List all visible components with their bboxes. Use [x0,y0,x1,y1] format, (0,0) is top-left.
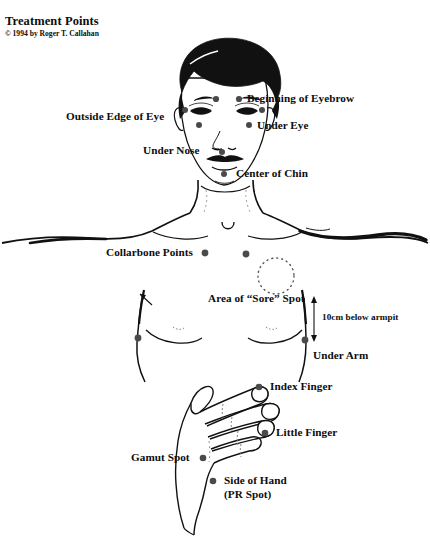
treatment-point-center-of-chin [221,171,227,177]
treatment-point-under-eye-left [196,122,202,128]
label-index-finger: Index Finger [270,380,332,393]
neck-tendon-right-icon [246,190,251,214]
clavicle-left-icon [153,232,208,239]
label-pr-spot: (PR Spot) [224,488,271,501]
head-group [174,38,280,185]
hand-outline [176,403,191,528]
trapezius-left-accent [30,239,106,243]
neck-tendon-left-icon [203,190,207,214]
hand-edge-outline [194,463,214,535]
sore-spot-circle [258,258,294,294]
clavicle-right-icon [248,232,302,239]
thumb-outline [191,386,213,413]
little-finger-outline [211,437,261,463]
label-collarbone-points: Collarbone Points [106,246,193,259]
hand-group [176,386,280,535]
neck-right-outline [253,180,263,213]
treatment-point-under-nose [219,149,225,155]
knuckle-crease-1-icon [222,404,223,418]
armpit-measure-arrowhead-top [311,296,317,303]
treatment-point-beginning-of-eyebrow-left [213,96,219,102]
treatment-point-little-finger [262,430,269,437]
wrist-outline [184,528,194,535]
treatment-point-index-finger [256,384,263,391]
treatment-point-under-eye-right [246,122,252,128]
middle-finger-tip-icon [262,403,279,419]
label-under-eye: Under Eye [257,119,309,132]
label-center-of-chin: Center of Chin [236,167,308,180]
palm-crease-icon [209,441,210,462]
treatment-point-collarbone-point-right [243,251,250,258]
treatment-point-under-arm-left [135,335,142,342]
body-diagram [0,0,430,536]
treatment-point-outside-edge-of-eye-left [182,107,188,113]
label-under-arm: Under Arm [313,349,368,362]
label-side-of-hand: Side of Hand [224,474,287,487]
treatment-point-beginning-of-eyebrow-right [236,96,242,102]
jaw-shadow-icon [201,186,250,192]
treatment-point-outside-edge-of-eye-right [259,107,265,113]
treatment-point-under-arm-right [302,337,309,344]
treatment-points-figure: Treatment Points © 1994 by Roger T. Call… [0,0,430,536]
treatment-point-side-of-hand-pr-spot [210,478,217,485]
pectoral-left-icon [146,330,202,343]
label-beginning-of-eyebrow: Beginning of Eyebrow [247,92,354,105]
treatment-point-collarbone-point-left [202,250,209,257]
armpit-measure-arrowhead-bottom [311,335,317,342]
treatment-point-gamut-spot [200,455,207,462]
neck-left-outline [190,180,198,213]
knuckle-crease-4-icon [240,444,241,457]
copyright-notice: © 1994 by Roger T. Callahan [5,29,99,38]
pectoral-right-icon [248,330,302,343]
label-area-of-sore-spot: Area of “Sore” Spot [208,292,305,305]
page-title: Treatment Points [5,14,99,29]
sternal-notch-icon [222,222,234,229]
nipple-hint-left-icon [173,327,184,329]
nipple-hint-right-icon [266,327,277,329]
label-little-finger: Little Finger [276,426,337,439]
label-10cm-below-armpit: 10cm below armpit [322,312,398,323]
label-under-nose: Under Nose [143,144,200,157]
label-gamut-spot: Gamut Spot [131,451,190,464]
label-outside-edge-of-eye: Outside Edge of Eye [66,110,164,123]
deltoid-crease-icon [306,228,330,230]
